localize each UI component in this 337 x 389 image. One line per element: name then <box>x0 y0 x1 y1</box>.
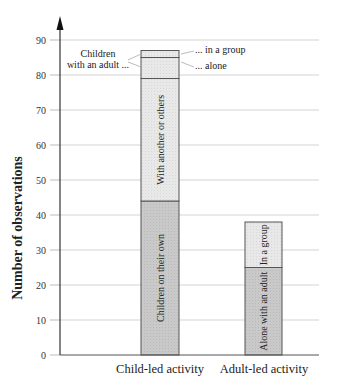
y-axis-ticks: 0102030405060708090 <box>36 35 60 361</box>
x-axis-labels: Child-led activityAdult-led activity <box>116 362 309 376</box>
y-axis-arrow-icon <box>57 16 64 30</box>
annotation-right-bottom: ... alone <box>195 60 227 71</box>
stacked-bar-chart: 0102030405060708090 Children on their ow… <box>0 0 337 389</box>
bar-segment <box>141 58 179 79</box>
y-tick-label: 80 <box>36 70 46 81</box>
y-tick-label: 0 <box>41 350 46 361</box>
y-tick-label: 60 <box>36 140 46 151</box>
segment-label: Children on their own <box>155 234 166 322</box>
annotation-leader-right-top <box>181 51 194 54</box>
annotation-leader-left-top <box>128 54 141 60</box>
bars: Children on their ownWith another or oth… <box>141 51 282 356</box>
y-tick-label: 90 <box>36 35 46 46</box>
x-category-label: Child-led activity <box>116 362 205 376</box>
annotation-leader-right-bottom <box>181 62 194 67</box>
annotation-leader-left-bottom <box>128 62 141 67</box>
bar-segment <box>141 51 179 58</box>
bar-child-led: Children on their ownWith another or oth… <box>141 51 179 356</box>
y-tick-label: 30 <box>36 245 46 256</box>
segment-label: In a group <box>258 224 269 265</box>
y-tick-label: 70 <box>36 105 46 116</box>
annotation-left-line1: Children <box>81 48 116 59</box>
y-axis-label: Number of observations <box>10 156 25 300</box>
segment-label: Alone with an adult <box>258 271 269 350</box>
annotation-right-top: ... in a group <box>195 44 246 55</box>
y-tick-label: 50 <box>36 175 46 186</box>
y-tick-label: 40 <box>36 210 46 221</box>
bar-adult-led: Alone with an adultIn a group <box>245 222 282 355</box>
segment-label: With another or others <box>155 95 166 185</box>
x-category-label: Adult-led activity <box>220 362 309 376</box>
y-tick-label: 20 <box>36 280 46 291</box>
annotation-left-line2: with an adult ... <box>67 59 129 70</box>
y-tick-label: 10 <box>36 315 46 326</box>
